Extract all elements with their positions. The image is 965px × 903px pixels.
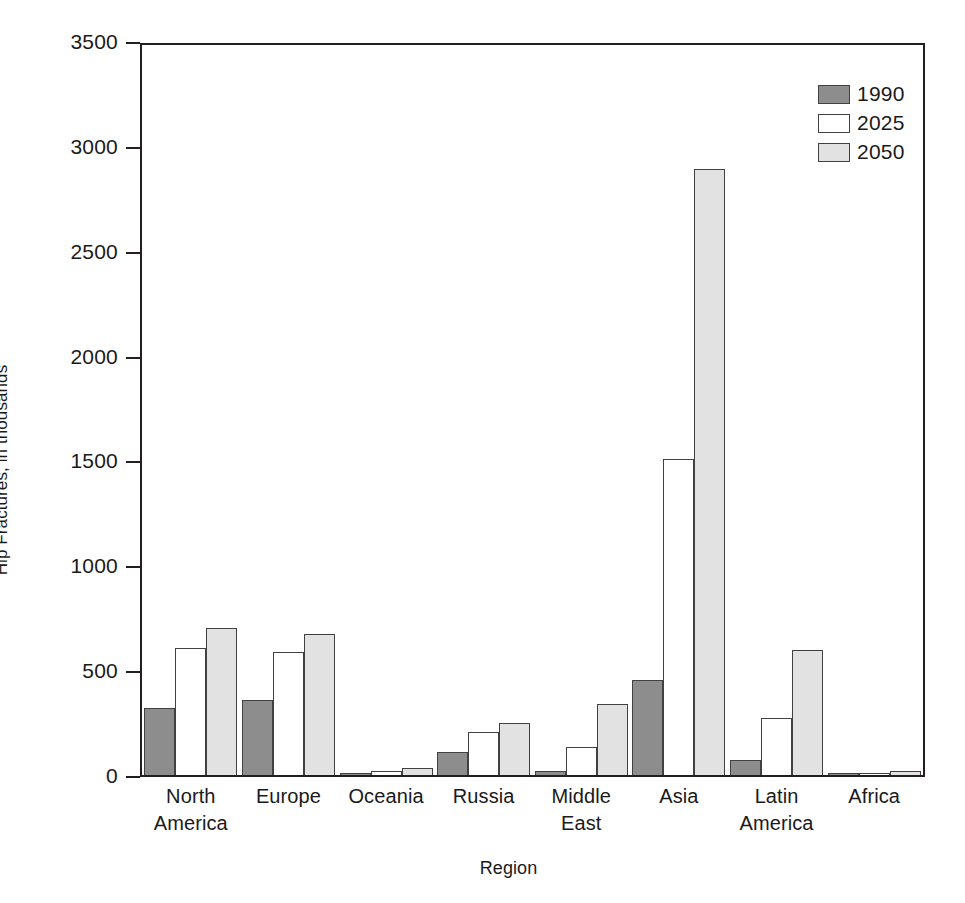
x-axis-tick-labels: NorthAmericaEuropeOceaniaRussiaMiddleEas…: [142, 783, 923, 837]
y-axis-tick-label: 3000: [70, 135, 118, 159]
x-axis-tick-label-line1: Russia: [453, 785, 515, 807]
legend-swatch-icon: [818, 143, 850, 162]
bar-group: [337, 45, 435, 775]
bar[interactable]: [859, 773, 890, 776]
bar-group: [533, 45, 631, 775]
bar-group: [728, 45, 826, 775]
x-axis-tick-label: LatinAmerica: [728, 783, 826, 837]
legend-swatch-icon: [818, 85, 850, 104]
bar[interactable]: [535, 771, 566, 775]
y-axis-tick-mark: [126, 147, 140, 149]
bar-group: [630, 45, 728, 775]
y-axis-tick-label: 2500: [70, 240, 118, 264]
x-axis-tick-label: Africa: [825, 783, 923, 837]
y-axis-title: Hip Fractures, in thousands: [0, 300, 12, 640]
bar[interactable]: [144, 708, 175, 775]
x-axis-tick-label-line1: Oceania: [348, 785, 423, 807]
bar[interactable]: [632, 680, 663, 775]
bar[interactable]: [175, 648, 206, 775]
legend-item-label: 2025: [857, 111, 905, 135]
legend-item-label: 2050: [857, 140, 905, 164]
x-axis-tick-label-line1: Middle: [552, 785, 612, 807]
bar[interactable]: [828, 773, 859, 776]
bar[interactable]: [730, 760, 761, 775]
y-axis-tick-mark: [126, 566, 140, 568]
bar[interactable]: [890, 771, 921, 775]
legend-item[interactable]: 2050: [818, 140, 905, 164]
x-axis-tick-label-line1: Asia: [659, 785, 698, 807]
legend-item[interactable]: 2025: [818, 111, 905, 135]
bar[interactable]: [304, 634, 335, 775]
y-axis-tick-mark: [126, 776, 140, 778]
bar-group: [240, 45, 338, 775]
y-axis-tick-mark: [126, 461, 140, 463]
y-axis-tick-mark: [126, 357, 140, 359]
y-axis-tick-label: 3500: [70, 30, 118, 54]
bars-layer: [142, 45, 923, 775]
x-axis-title-text: Region: [480, 858, 538, 878]
x-axis-tick-label: MiddleEast: [533, 783, 631, 837]
legend-swatch-icon: [818, 114, 850, 133]
x-axis-tick-label-line2: America: [728, 810, 826, 837]
x-axis-tick-label: Europe: [240, 783, 338, 837]
x-axis-tick-label: NorthAmerica: [142, 783, 240, 837]
x-axis-tick-label: Oceania: [337, 783, 435, 837]
bar[interactable]: [663, 459, 694, 775]
bar[interactable]: [437, 752, 468, 775]
bar[interactable]: [371, 771, 402, 775]
x-axis-tick-label: Russia: [435, 783, 533, 837]
y-axis-tick-label: 500: [82, 659, 118, 683]
x-axis-tick-label-line2: East: [533, 810, 631, 837]
legend-item[interactable]: 1990: [818, 82, 905, 106]
chart-page: Hip Fractures, in thousands 350030002500…: [0, 0, 965, 903]
y-axis-tick-label: 1500: [70, 449, 118, 473]
x-axis-tick-label-line2: America: [142, 810, 240, 837]
bar[interactable]: [206, 628, 237, 775]
x-axis-tick-label-line1: Africa: [848, 785, 900, 807]
legend: 199020252050: [818, 82, 905, 164]
x-axis-title: Region: [0, 858, 965, 879]
y-axis-tick-label: 0: [106, 764, 118, 788]
bar[interactable]: [273, 652, 304, 775]
bar[interactable]: [499, 723, 530, 775]
bar[interactable]: [792, 650, 823, 775]
x-axis-tick-label: Asia: [630, 783, 728, 837]
bar[interactable]: [242, 700, 273, 775]
bar-group: [435, 45, 533, 775]
x-axis-tick-label-line1: Latin: [755, 785, 799, 807]
y-axis-tick-label: 2000: [70, 345, 118, 369]
bar[interactable]: [468, 732, 499, 775]
y-axis-tick-label: 1000: [70, 554, 118, 578]
bar[interactable]: [340, 773, 371, 776]
bar[interactable]: [694, 169, 725, 776]
x-axis-tick-label-line1: Europe: [256, 785, 321, 807]
bar[interactable]: [597, 704, 628, 775]
legend-item-label: 1990: [857, 82, 905, 106]
bar[interactable]: [566, 747, 597, 775]
y-axis-tick-mark: [126, 252, 140, 254]
x-axis-tick-label-line1: North: [166, 785, 215, 807]
y-axis-tick-mark: [126, 671, 140, 673]
bar-group: [142, 45, 240, 775]
bar[interactable]: [402, 768, 433, 775]
bar[interactable]: [761, 718, 792, 776]
y-axis-tick-mark: [126, 42, 140, 44]
